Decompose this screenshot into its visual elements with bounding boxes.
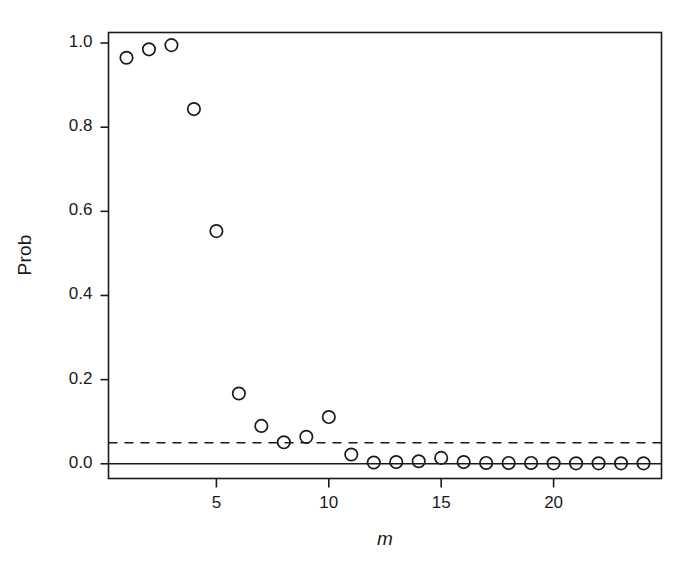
data-point [525, 457, 537, 469]
x-axis-ticks [216, 479, 553, 488]
figure-canvas: Prob m 0.00.20.40.60.81.0 5101520 [0, 0, 692, 575]
x-tick-label: 5 [196, 493, 236, 513]
y-tick-label: 0.6 [47, 200, 93, 220]
threshold-line [109, 443, 662, 464]
data-point [413, 455, 425, 467]
data-point [188, 103, 200, 115]
y-tick-label: 0.0 [47, 453, 93, 473]
data-point [480, 457, 492, 469]
y-tick-label: 1.0 [47, 32, 93, 52]
data-point [143, 43, 155, 55]
data-points [120, 39, 649, 470]
data-point [457, 456, 469, 468]
data-point [300, 431, 312, 443]
data-point [255, 420, 267, 432]
x-axis-label: m [108, 528, 662, 550]
plot-frame [109, 33, 662, 479]
data-point [165, 39, 177, 51]
scatter-plot-svg [0, 0, 692, 575]
y-tick-label: 0.4 [47, 284, 93, 304]
data-point [435, 452, 447, 464]
data-point [120, 52, 132, 64]
data-point [323, 411, 335, 423]
data-point [368, 456, 380, 468]
data-point [390, 456, 402, 468]
data-point [233, 387, 245, 399]
x-tick-label: 10 [309, 493, 349, 513]
data-point [345, 448, 357, 460]
x-tick-label: 20 [534, 493, 574, 513]
y-axis-ticks [101, 43, 109, 464]
y-tick-label: 0.8 [47, 116, 93, 136]
data-point [502, 457, 514, 469]
y-tick-label: 0.2 [47, 369, 93, 389]
data-point [210, 225, 222, 237]
x-tick-label: 15 [421, 493, 461, 513]
y-axis-label: Prob [8, 32, 42, 478]
